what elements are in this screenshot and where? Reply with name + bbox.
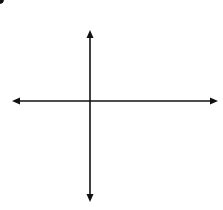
- coordinate-plane: [0, 0, 223, 210]
- original-triangle: [0, 0, 4, 4]
- x-axis-left-arrow-icon: [12, 98, 20, 105]
- x-axis-right-arrow-icon: [210, 98, 218, 105]
- y-axis-up-arrow-icon: [87, 30, 94, 38]
- y-axis-down-arrow-icon: [87, 194, 94, 202]
- coordinate-plane-figure: [0, 0, 223, 210]
- axes: [12, 30, 218, 202]
- vertex-point-r: [0, 0, 4, 4]
